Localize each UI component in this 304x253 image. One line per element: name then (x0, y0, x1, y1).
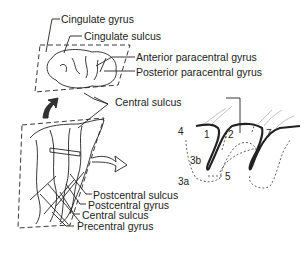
leader-cingulate-gyrus (46, 19, 60, 52)
right-arrow (92, 156, 127, 172)
paracentral-lobule (47, 50, 116, 88)
area-5: 5 (225, 171, 231, 182)
area-2: 2 (228, 129, 234, 140)
area-1: 1 (204, 129, 210, 140)
label-cingulate-gyrus: Cingulate gyrus (61, 13, 134, 25)
label-precentral-gyrus: Precentral gyrus (77, 220, 153, 232)
label-cingulate-sulcus: Cingulate sulcus (84, 30, 161, 42)
cortex-cross-section (186, 106, 300, 188)
area-3a: 3a (178, 176, 189, 187)
label-posterior-paracentral-gyrus: Posterior paracentral gyrus (136, 66, 262, 78)
area-7: 7 (266, 128, 272, 139)
area-3b: 3b (190, 155, 201, 166)
leader-central-sulcus-right (226, 98, 240, 133)
area-4: 4 (178, 126, 184, 137)
up-arrow (43, 98, 58, 118)
section-marker (50, 148, 80, 156)
label-anterior-paracentral-gyrus: Anterior paracentral gyrus (136, 51, 257, 63)
label-central-sulcus-top: Central sulcus (115, 96, 182, 108)
